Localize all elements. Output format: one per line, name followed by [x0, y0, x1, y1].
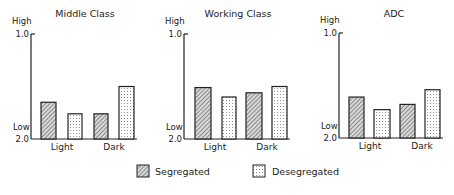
y-tick-top: 1.0	[168, 29, 182, 39]
legend-item-desegregated: Desegregated	[253, 165, 339, 177]
x-category-label: Dark	[411, 141, 433, 151]
bar-light-segregated	[41, 102, 56, 139]
y-tick-bottom: 2.0	[15, 134, 29, 144]
bar-dark-segregated	[246, 93, 262, 139]
y-tick-top: 1.0	[15, 29, 29, 39]
legend-item-segregated: Segregated	[137, 165, 210, 177]
chart-title: Working Class	[205, 8, 272, 19]
y-top-label: High	[12, 16, 32, 26]
y-top-label: High	[165, 16, 185, 26]
bar-light-segregated	[195, 88, 211, 139]
chart-panel-adc: ADCHigh1.0Low2.0LightDark	[320, 8, 443, 151]
x-category-label: Light	[51, 142, 74, 152]
bar-light-desegregated	[374, 110, 390, 138]
y-bottom-label: Low	[166, 122, 183, 132]
legend-label-desegregated: Desegregated	[272, 166, 339, 177]
x-category-label: Dark	[256, 142, 278, 152]
x-category-label: Light	[359, 141, 382, 151]
y-tick-top: 1.0	[323, 28, 337, 38]
figure: Middle ClassHigh1.0Low2.0LightDarkWorkin…	[0, 0, 454, 195]
bar-light-desegregated	[222, 97, 236, 139]
bar-dark-segregated	[400, 104, 415, 138]
y-tick-bottom: 2.0	[168, 134, 182, 144]
y-bottom-label: Low	[321, 121, 338, 131]
bar-dark-desegregated	[272, 87, 287, 140]
chart-panel-working-class: Working ClassHigh1.0Low2.0LightDark	[165, 8, 290, 152]
segregated-swatch-icon	[137, 165, 149, 177]
bar-dark-segregated	[94, 114, 108, 139]
desegregated-swatch-icon	[253, 165, 265, 177]
bar-dark-desegregated	[425, 90, 440, 138]
bar-charts: Middle ClassHigh1.0Low2.0LightDarkWorkin…	[0, 0, 454, 195]
chart-title: Middle Class	[55, 8, 114, 19]
y-top-label: High	[320, 15, 340, 25]
legend: Segregated Desegregated	[137, 165, 339, 177]
legend-label-segregated: Segregated	[155, 166, 210, 177]
x-category-label: Light	[204, 142, 227, 152]
y-tick-bottom: 2.0	[323, 133, 337, 143]
bar-light-segregated	[349, 97, 364, 138]
bar-dark-desegregated	[119, 87, 134, 140]
chart-title: ADC	[384, 8, 405, 19]
chart-panel-middle-class: Middle ClassHigh1.0Low2.0LightDark	[12, 8, 137, 152]
bar-light-desegregated	[68, 114, 82, 139]
x-category-label: Dark	[103, 142, 125, 152]
y-bottom-label: Low	[13, 122, 30, 132]
